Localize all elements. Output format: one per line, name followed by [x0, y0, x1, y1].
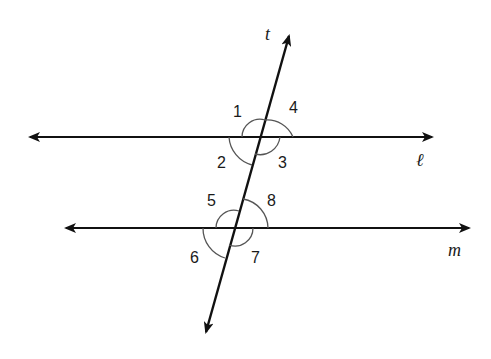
angle-label-3: 3: [278, 154, 287, 171]
line-label-m: m: [448, 240, 461, 260]
angle-arc-6: [203, 228, 225, 258]
angle-arc-8: [243, 199, 268, 228]
angle-label-4: 4: [289, 99, 298, 116]
transversal-t: [206, 36, 289, 332]
transversal-diagram: 1 4 2 3 5 8 6 7 t ℓ m: [0, 0, 491, 359]
angle-label-5: 5: [207, 192, 216, 209]
angle-arc-2: [229, 137, 252, 165]
angle-label-2: 2: [217, 154, 226, 171]
line-label-l: ℓ: [416, 150, 424, 170]
angle-label-6: 6: [190, 249, 199, 266]
line-label-t: t: [265, 24, 271, 44]
angle-label-8: 8: [267, 192, 276, 209]
angle-label-1: 1: [233, 103, 242, 120]
angle-label-7: 7: [251, 249, 260, 266]
angle-arc-4: [265, 120, 293, 137]
